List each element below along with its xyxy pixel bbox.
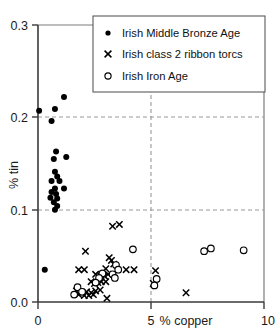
data-point-filled [56, 178, 62, 184]
y-axis-title: % tin [7, 161, 21, 189]
data-point-layer [36, 94, 247, 301]
ytick-label-0.0: 0.0 [11, 296, 28, 310]
xtick-label-5: 5 [148, 314, 155, 328]
data-point-cross [75, 266, 81, 272]
data-point-filled [61, 94, 67, 100]
data-point-open [71, 291, 78, 298]
data-point-filled [51, 156, 57, 162]
legend-marker-open-circle [105, 73, 111, 79]
data-point-cross [109, 223, 115, 229]
data-point-filled [42, 267, 48, 273]
x-ticks: 0 5 10 [35, 302, 275, 328]
data-point-open [151, 282, 158, 289]
legend-label-0: Irish Middle Bronze Age [122, 27, 240, 39]
x-axis-title: % copper [160, 314, 213, 328]
data-point-filled [63, 154, 69, 160]
data-point-cross [103, 278, 109, 284]
data-point-open [130, 246, 137, 253]
xtick-label-10: 10 [261, 314, 275, 328]
data-point-open [112, 275, 119, 282]
data-point-filled [36, 108, 42, 114]
data-point-cross [82, 248, 88, 254]
data-point-cross [152, 267, 158, 273]
data-point-filled [53, 148, 59, 154]
series-1 [73, 221, 189, 301]
legend-marker-filled-circle [105, 30, 110, 35]
data-point-cross [104, 295, 110, 301]
series-0 [36, 94, 69, 273]
ytick-label-0.1: 0.1 [11, 204, 28, 218]
data-point-cross [116, 221, 122, 227]
scatter-chart: 0.3 0.2 0.1 0.0 0 5 10 % copper % tin [0, 0, 279, 335]
data-point-open [115, 266, 122, 273]
data-point-cross [131, 266, 137, 272]
legend: Irish Middle Bronze Age Irish class 2 ri… [93, 16, 265, 92]
data-point-cross [97, 287, 103, 293]
data-point-filled [52, 106, 58, 112]
data-point-filled [52, 207, 58, 213]
legend-label-2: Irish Iron Age [122, 70, 188, 82]
data-point-cross [183, 290, 189, 296]
data-point-open [208, 245, 215, 252]
xtick-label-0: 0 [35, 314, 42, 328]
plot-area: 0.3 0.2 0.1 0.0 0 5 10 % copper % tin [0, 0, 279, 335]
data-point-open [79, 289, 86, 296]
ytick-label-0.3: 0.3 [11, 19, 28, 33]
data-point-filled [49, 178, 55, 184]
data-point-open [201, 248, 208, 255]
legend-label-1: Irish class 2 ribbon torcs [122, 48, 243, 60]
data-point-filled [49, 118, 55, 124]
data-point-open [92, 279, 99, 286]
data-point-open [153, 276, 160, 283]
data-point-cross [81, 266, 87, 272]
data-point-filled [61, 185, 67, 191]
data-point-open [240, 247, 247, 254]
data-point-cross [123, 266, 129, 272]
ytick-label-0.2: 0.2 [11, 111, 28, 125]
